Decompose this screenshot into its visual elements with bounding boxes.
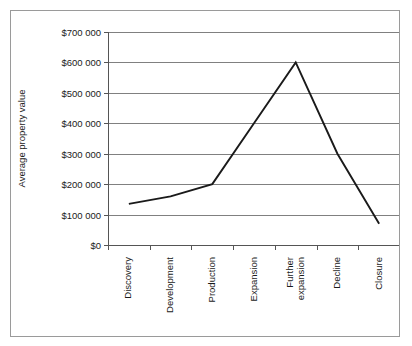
series-polyline [129, 62, 379, 223]
x-axis-tick-label: Expansion [248, 257, 259, 301]
x-axis-tick-labels: DiscoveryDevelopmentProductionExpansionF… [122, 257, 383, 313]
y-axis-tick-label: $600 000 [61, 57, 101, 68]
axis-lines [108, 32, 399, 246]
y-axis-tick-label: $500 000 [61, 88, 101, 99]
y-axis-tick-labels: $0$100 000$200 000$300 000$400 000$500 0… [61, 27, 108, 251]
gridlines [108, 33, 399, 246]
y-axis-tick-label: $200 000 [61, 179, 101, 190]
y-axis-tick-label: $300 000 [61, 149, 101, 160]
x-axis-tick-label: Production [206, 257, 217, 302]
y-axis-tick-label: $100 000 [61, 210, 101, 221]
line-chart: $0$100 000$200 000$300 000$400 000$500 0… [11, 11, 399, 336]
x-axis-tick-label: Closure [373, 257, 384, 290]
y-axis-tick-label: $400 000 [61, 118, 101, 129]
x-axis-tick-label: Development [164, 257, 175, 313]
y-axis-title: Average property value [16, 89, 27, 187]
x-axis-tick-label: Decline [331, 257, 342, 289]
data-series-line [129, 62, 379, 223]
y-axis-tick-label: $700 000 [61, 27, 101, 38]
x-axis-tick-label: Discovery [122, 257, 133, 299]
x-axis-tick-label: Further [284, 257, 295, 288]
x-axis-tick-label: expansion [295, 257, 306, 300]
y-axis-tick-label: $0 [90, 240, 101, 251]
chart-frame: $0$100 000$200 000$300 000$400 000$500 0… [10, 10, 400, 337]
